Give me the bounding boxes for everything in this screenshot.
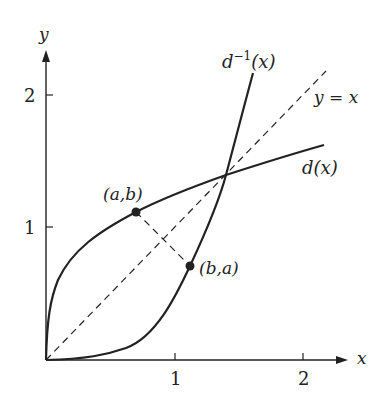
inverse-label: d−1(x) [222,49,275,72]
x-axis-label: x [357,348,367,368]
x-tick-label-2: 2 [298,368,309,389]
x-tick-label-1: 1 [170,368,181,389]
x-axis-arrow-icon [336,356,348,364]
graph: y x 2 1 1 2 d−1(x) y = x d(x) (a,b) (b,a… [0,0,384,403]
point-ba-label: (b,a) [199,258,239,278]
diagonal-label: y = x [313,87,359,107]
y-tick-label-2: 2 [24,85,35,106]
function-curve [46,145,324,360]
point-ba [186,262,195,271]
point-ab-label: (a,b) [103,184,143,204]
diagonal-line [46,71,326,360]
y-tick-label-1: 1 [24,217,35,238]
diagram: y x 2 1 1 2 d−1(x) y = x d(x) (a,b) (b,a… [0,0,384,403]
function-label: d(x) [302,157,338,178]
y-axis-arrow-icon [42,50,50,62]
inverse-curve [46,73,253,360]
point-ab [132,208,141,217]
y-axis-label: y [38,24,49,44]
